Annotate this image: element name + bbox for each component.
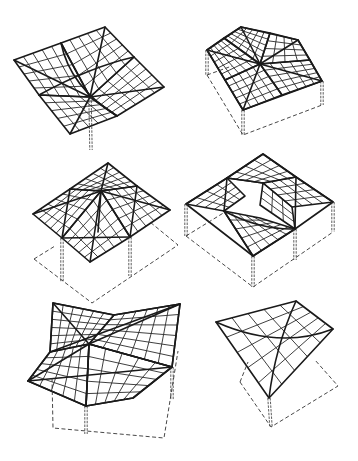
shell-5 [28, 303, 180, 438]
grid-line [34, 86, 84, 88]
floor-outline [240, 360, 338, 427]
panel-edge [260, 183, 295, 229]
grid-line [95, 349, 105, 405]
grid-line [239, 89, 277, 104]
tie-line [62, 237, 130, 238]
shell-4 [185, 154, 334, 287]
grid-line [264, 309, 307, 356]
grid-line [254, 160, 288, 179]
grid-line [87, 392, 141, 394]
grid-line [229, 70, 265, 86]
floor-outline [34, 246, 55, 259]
panel-edge [225, 64, 282, 110]
grid-line [93, 200, 122, 242]
column-line [270, 398, 272, 427]
grid-line [67, 33, 111, 54]
grid-line [272, 191, 273, 213]
grid-line [239, 74, 259, 104]
grid-line [112, 81, 158, 112]
floor-outline [34, 222, 178, 303]
grid-line [51, 349, 65, 391]
grid-line [116, 73, 145, 99]
grid-line [101, 69, 146, 105]
grid-line [248, 318, 318, 368]
grid-line [253, 67, 274, 98]
grid-line [85, 179, 115, 189]
sag-curve [216, 322, 333, 338]
ridge-line [260, 40, 298, 64]
grid-line [124, 205, 163, 228]
grid-line [236, 83, 273, 98]
column-line [91, 97, 92, 150]
shell-2 [206, 27, 323, 135]
grid-line [262, 190, 293, 214]
grid-line [87, 381, 148, 385]
grid-line [221, 40, 253, 67]
grid-line [232, 77, 251, 107]
ridge-line [295, 177, 296, 229]
shell-6 [216, 301, 338, 427]
ridge-line [90, 87, 164, 97]
shell-1 [14, 27, 164, 150]
shell-3 [33, 163, 178, 303]
grid-line [93, 173, 123, 188]
wall-base-outline [186, 212, 225, 236]
wall-base-outline [186, 232, 333, 287]
grid-line [282, 199, 283, 221]
roof-outline [28, 303, 180, 406]
panel-edge [216, 301, 333, 398]
hypar-shells-drawing [0, 0, 358, 461]
grid-line [64, 112, 112, 126]
grid-line [74, 346, 81, 401]
